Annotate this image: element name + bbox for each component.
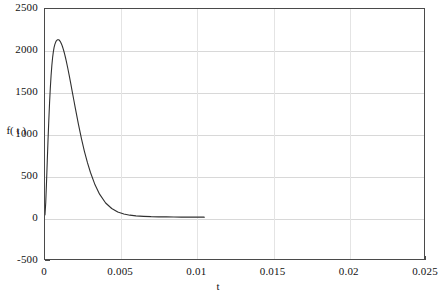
x-tick-label: 0 <box>14 266 74 277</box>
data-curve <box>45 9 424 259</box>
y-tick-label: -500 <box>0 254 38 265</box>
y-tick-label: 1500 <box>0 86 38 97</box>
x-tickmark <box>425 256 426 260</box>
x-tick-label: 0.02 <box>319 266 379 277</box>
x-tick-label: 0.005 <box>90 266 150 277</box>
y-tick-label: 0 <box>0 212 38 223</box>
x-tick-label: 0.01 <box>166 266 226 277</box>
y-tick-label: 2500 <box>0 2 38 13</box>
y-tick-label: 500 <box>0 170 38 181</box>
x-tick-label: 0.025 <box>395 266 442 277</box>
y-tick-label: 2000 <box>0 44 38 55</box>
x-tick-label: 0.015 <box>243 266 303 277</box>
x-axis-label: t <box>0 281 436 292</box>
plot-area <box>44 8 425 260</box>
y-tickmark <box>45 260 50 261</box>
y-tick-label: 1000 <box>0 128 38 139</box>
